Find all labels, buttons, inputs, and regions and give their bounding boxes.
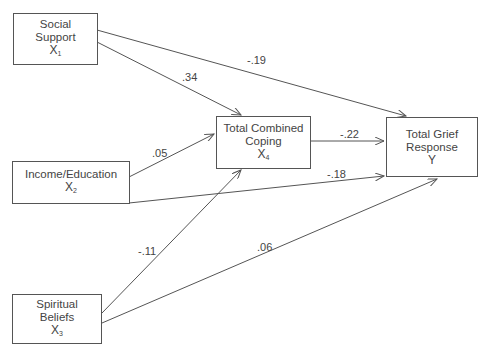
variable-symbol: X2 — [65, 181, 77, 197]
node-label-line: Total Grief — [406, 128, 458, 141]
edge-x2-x4 — [129, 134, 214, 177]
coef-x1-x4: .34 — [182, 71, 197, 83]
node-label-line: Total Combined — [224, 122, 304, 135]
variable-symbol: X1 — [50, 44, 62, 60]
node-total-combined-coping: Total Combined Coping X4 — [216, 116, 311, 169]
node-label-line: Spiritual — [36, 298, 78, 311]
node-total-grief-response: Total Grief Response Y — [386, 117, 478, 177]
edge-x1-x4 — [97, 42, 241, 115]
variable-symbol: X4 — [258, 148, 270, 164]
node-label-line: Social — [40, 18, 71, 31]
coef-x2-x4: .05 — [152, 147, 167, 159]
node-social-support: Social Support X1 — [13, 13, 98, 65]
coef-x3-y: .06 — [257, 241, 272, 253]
coef-x3-x4: -.11 — [138, 245, 156, 257]
coef-x1-y: -.19 — [247, 54, 266, 66]
coef-x2-y: -.18 — [327, 168, 346, 180]
node-label-line: Response — [406, 141, 458, 154]
coef-x4-y: -.22 — [340, 128, 359, 140]
node-income-education: Income/Education X2 — [12, 161, 130, 204]
edge-x2-y — [129, 176, 384, 203]
variable-symbol: X3 — [51, 324, 63, 340]
variable-symbol: Y — [428, 154, 436, 167]
edge-x1-y — [97, 30, 406, 116]
node-spiritual-beliefs: Spiritual Beliefs X3 — [12, 294, 102, 344]
